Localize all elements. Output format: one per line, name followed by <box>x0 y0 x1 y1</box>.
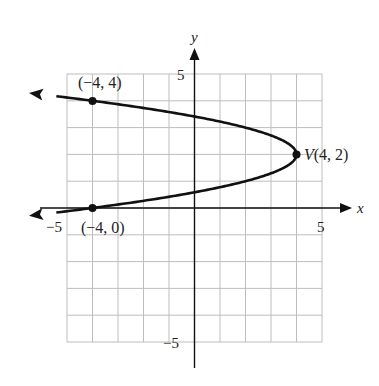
point-bottom <box>89 204 97 212</box>
vertex-coords: (4, 2) <box>314 146 349 164</box>
x-tick-5: 5 <box>317 219 325 235</box>
x-tick-neg5: −5 <box>46 219 62 235</box>
point-top-label: (−4, 4) <box>78 74 122 92</box>
y-tick-neg5: −5 <box>163 335 179 351</box>
curve-arrow-bottom-icon <box>29 208 44 220</box>
y-tick-5: 5 <box>177 67 185 83</box>
vertex-point <box>293 151 301 159</box>
x-axis-label: x <box>356 200 364 216</box>
point-top <box>89 97 97 105</box>
y-axis-arrow-icon <box>190 48 200 60</box>
parabola-chart: y x 5 −5 5 −5 (−4, 4) (−4, 0) V(4, 2) <box>0 0 379 386</box>
x-axis-arrow-icon <box>340 203 352 213</box>
point-bottom-label: (−4, 0) <box>81 219 125 237</box>
y-axis-label: y <box>189 29 198 45</box>
vertex-label: V(4, 2) <box>304 146 348 164</box>
curve-arrow-top-icon <box>29 89 44 101</box>
